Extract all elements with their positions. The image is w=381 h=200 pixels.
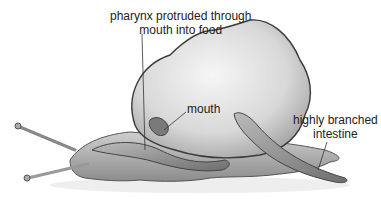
label-pharynx: pharynx protruded through mouth into foo… <box>110 9 251 37</box>
label-intestine-line1: highly branched <box>293 113 378 127</box>
flatworm-snail-diagram: pharynx protruded through mouth into foo… <box>0 0 381 200</box>
eye-tip-lower <box>24 175 30 181</box>
eye-tip-upper <box>15 123 21 129</box>
label-intestine: highly branched intestine <box>293 113 378 141</box>
label-pharynx-line2: mouth into food <box>110 23 251 37</box>
label-pharynx-line1: pharynx protruded through <box>110 9 251 23</box>
upper-tentacle <box>20 127 75 150</box>
label-mouth: mouth <box>187 102 220 116</box>
snail-shell <box>132 20 311 158</box>
label-intestine-line2: intestine <box>293 127 378 141</box>
